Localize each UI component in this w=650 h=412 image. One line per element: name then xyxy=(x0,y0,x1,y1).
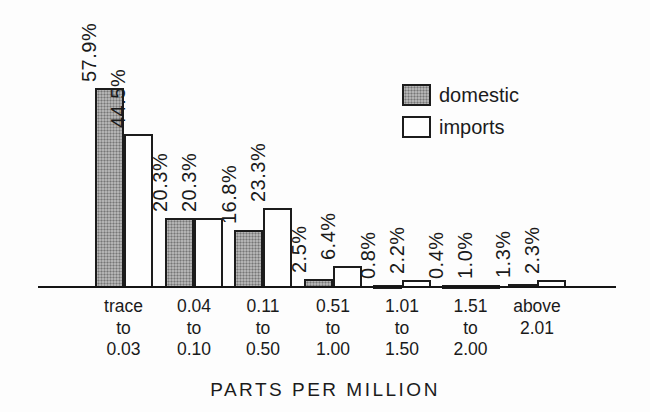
bar-imports-1 xyxy=(194,218,223,288)
value-label-imports-4: 2.2% xyxy=(387,227,407,275)
value-label-domestic-3: 2.5% xyxy=(289,226,309,274)
value-label-imports-6: 2.3% xyxy=(522,226,542,274)
value-label-domestic-0: 57.9% xyxy=(79,23,99,82)
x-axis-title: PARTS PER MILLION xyxy=(0,379,650,401)
legend-item-domestic: domestic xyxy=(402,84,519,106)
legend-label-domestic: domestic xyxy=(439,84,519,106)
bar-chart-figure: 57.9%44.5%trace to 0.0320.3%20.3%0.04 to… xyxy=(0,0,650,412)
value-label-imports-1: 20.3% xyxy=(179,153,199,212)
legend-label-imports: imports xyxy=(439,116,505,138)
bar-domestic-2 xyxy=(234,230,263,288)
bar-domestic-1 xyxy=(165,218,194,288)
legend-swatch-domestic xyxy=(402,84,431,106)
value-label-domestic-6: 1.3% xyxy=(493,230,513,278)
value-label-domestic-1: 20.3% xyxy=(150,153,170,212)
value-label-domestic-2: 16.8% xyxy=(219,165,239,224)
value-label-imports-3: 6.4% xyxy=(318,212,338,260)
value-label-imports-2: 23.3% xyxy=(248,142,268,201)
value-label-domestic-4: 0.8% xyxy=(358,231,378,279)
x-axis-line xyxy=(38,286,616,288)
category-label-6: above 2.01 xyxy=(495,296,579,339)
value-label-imports-5: 1.0% xyxy=(455,231,475,279)
value-label-imports-0: 44.5% xyxy=(108,69,128,128)
legend: domestic imports xyxy=(402,84,519,148)
value-label-domestic-5: 0.4% xyxy=(426,231,446,279)
legend-item-imports: imports xyxy=(402,116,519,138)
legend-swatch-imports xyxy=(402,116,431,138)
